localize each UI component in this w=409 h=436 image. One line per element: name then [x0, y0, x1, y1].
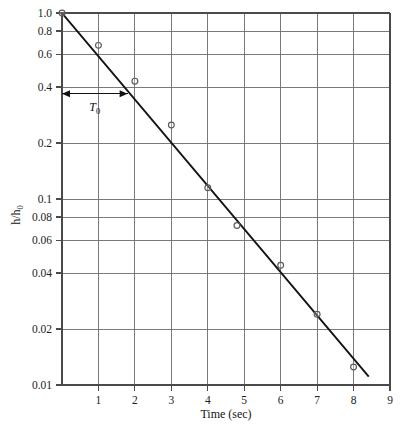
data-point — [59, 10, 65, 16]
data-point — [205, 185, 211, 191]
tick-label-x-2: 2 — [132, 394, 138, 406]
tick-label-x-7: 7 — [314, 394, 320, 406]
tick-label-y-0.4: 0.4 — [38, 81, 53, 93]
data-point — [168, 122, 174, 128]
tick-label-x-5: 5 — [241, 394, 247, 406]
y-axis-title-subscript: 0 — [15, 205, 25, 209]
data-point — [234, 223, 240, 229]
semilog-decay-chart: 1.00.80.60.40.20.10.080.060.040.020.01 1… — [0, 0, 409, 436]
tick-label-x-8: 8 — [351, 394, 357, 406]
tick-label-x-4: 4 — [205, 394, 211, 406]
tick-label-x-3: 3 — [168, 394, 174, 406]
tick-label-x-1: 1 — [96, 394, 102, 406]
x-axis-title: Time (sec) — [200, 407, 251, 421]
data-point — [351, 364, 357, 370]
tick-label-y-0.06: 0.06 — [32, 234, 52, 246]
t0-label-subscript: 0 — [96, 106, 100, 116]
tick-label-y-0.6: 0.6 — [38, 48, 53, 60]
tick-label-y-0.04: 0.04 — [32, 267, 52, 279]
y-axis-title-main: h/h — [9, 209, 23, 224]
data-point — [132, 78, 138, 84]
tick-label-y-0.8: 0.8 — [38, 25, 53, 37]
tick-label-y-0.02: 0.02 — [32, 323, 52, 335]
chart-background — [0, 0, 409, 436]
tick-label-y-0.08: 0.08 — [32, 211, 52, 223]
tick-label-y-0.2: 0.2 — [38, 137, 53, 149]
data-point — [314, 311, 320, 317]
tick-label-y-0.1: 0.1 — [38, 193, 53, 205]
tick-label-y-1.0: 1.0 — [38, 7, 53, 19]
chart-figure: 1.00.80.60.40.20.10.080.060.040.020.01 1… — [0, 0, 409, 436]
tick-label-y-0.01: 0.01 — [32, 379, 52, 391]
data-point — [96, 42, 102, 48]
tick-label-x-9: 9 — [387, 394, 393, 406]
data-point — [278, 262, 284, 268]
tick-label-x-6: 6 — [278, 394, 284, 406]
